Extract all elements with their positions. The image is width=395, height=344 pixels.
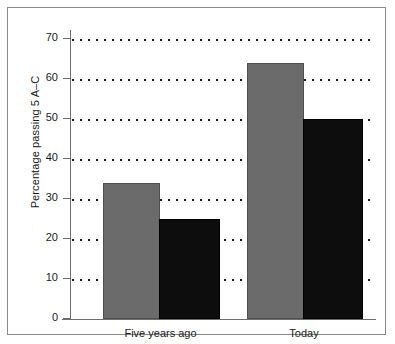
y-tick-label: 10	[30, 271, 58, 283]
y-tick-mark	[63, 318, 71, 319]
y-tick-label: 20	[30, 231, 58, 243]
y-tick-label: 0	[30, 311, 58, 323]
chart-frame: Percentage passing 5 A–C 010203040506070…	[7, 7, 386, 335]
y-tick-mark	[63, 278, 71, 279]
y-tick-mark	[63, 158, 71, 159]
plot-area: 010203040506070 Five years agoToday	[70, 24, 376, 312]
bar-series-1-gray-1	[247, 63, 304, 319]
y-tick-mark	[63, 198, 71, 199]
bar-series-2-black-0	[159, 219, 220, 319]
category-label-1: Today	[206, 327, 395, 339]
bars-layer	[71, 24, 376, 319]
y-tick-mark	[63, 118, 71, 119]
bar-series-2-black-1	[303, 119, 363, 319]
y-tick-mark	[63, 238, 71, 239]
x-axis-line	[62, 319, 376, 320]
y-tick-label: 50	[30, 111, 58, 123]
y-tick-mark	[63, 78, 71, 79]
bar-series-1-gray-0	[103, 183, 160, 319]
y-tick-label: 30	[30, 191, 58, 203]
y-tick-label: 40	[30, 151, 58, 163]
y-tick-label: 70	[30, 31, 58, 43]
y-tick-label: 60	[30, 71, 58, 83]
y-tick-mark	[63, 38, 71, 39]
